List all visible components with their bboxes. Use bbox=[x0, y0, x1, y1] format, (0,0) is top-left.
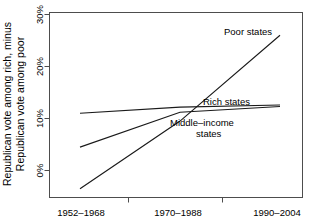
y-tick-label-20: 20% bbox=[34, 56, 45, 76]
y-tick-label-0: 0% bbox=[34, 163, 45, 177]
line-chart: 30% 20% 10% 0% Republican vote among ric… bbox=[0, 0, 314, 223]
series-label-middle-income-states-line1: Middle–income bbox=[170, 117, 234, 128]
y-tick-label-10: 10% bbox=[34, 108, 45, 128]
y-axis-title-line2: Republican vote among poor bbox=[14, 36, 26, 171]
chart-container: 30% 20% 10% 0% Republican vote among ric… bbox=[0, 0, 314, 223]
series-label-rich-states: Rich states bbox=[203, 96, 250, 107]
y-axis-title: Republican vote among rich, minus Republ… bbox=[1, 22, 26, 186]
x-tick-label-1952-1968: 1952–1968 bbox=[57, 207, 105, 218]
series-label-middle-income-states-line2: states bbox=[196, 128, 222, 139]
x-tick-label-1970-1988: 1970–1988 bbox=[154, 207, 202, 218]
x-tick-label-1990-2004: 1990–2004 bbox=[253, 207, 301, 218]
y-axis-title-line1: Republican vote among rich, minus bbox=[1, 22, 13, 186]
y-tick-label-30: 30% bbox=[34, 4, 45, 24]
x-axis-tick-labels: 1952–1968 1970–1988 1990–2004 bbox=[57, 207, 301, 218]
series-label-poor-states: Poor states bbox=[224, 26, 272, 37]
